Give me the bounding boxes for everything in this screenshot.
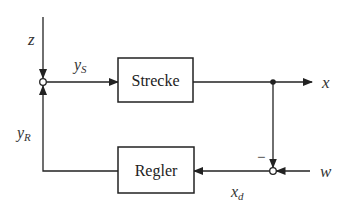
yr-feedback-arrow: [43, 86, 118, 171]
label-yr: yR: [15, 124, 31, 143]
label-w: w: [320, 162, 332, 181]
summing-junction-left: [40, 79, 47, 86]
label-z: z: [27, 30, 35, 49]
control-loop-diagram: z yS Strecke x − w xd Regler yR: [0, 0, 359, 215]
summing-junction-right: [270, 168, 277, 175]
label-ys: yS: [72, 56, 87, 75]
minus-sign: −: [257, 149, 265, 165]
block-strecke-label: Strecke: [132, 72, 180, 89]
label-x: x: [321, 73, 330, 92]
label-xd: xd: [230, 183, 244, 202]
block-regler-label: Regler: [135, 162, 178, 180]
